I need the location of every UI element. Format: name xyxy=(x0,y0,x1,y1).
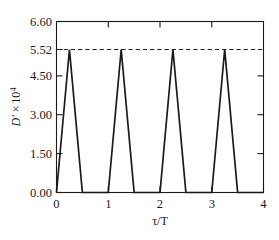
svg-text:D′×104: D′×104 xyxy=(9,87,24,127)
y-tick-label-1: 1.50 xyxy=(30,147,52,161)
y-axis-label-symbol: D′ xyxy=(9,115,23,128)
y-axis-label-exponent: 4 xyxy=(9,87,18,91)
figure-container: 0.00 1.50 3.00 4.50 5.52 6.60 0 1 2 3 4 … xyxy=(0,0,279,240)
x-tick-label-1: 1 xyxy=(105,197,111,211)
y-tick-label-4: 5.52 xyxy=(30,43,52,57)
x-axis-label: τ/T xyxy=(152,214,168,228)
x-tick-label-2: 2 xyxy=(157,197,163,211)
x-tick-label-3: 3 xyxy=(209,197,215,211)
y-axis-label-times: × xyxy=(9,106,23,113)
y-tick-label-0: 0.00 xyxy=(30,186,52,200)
y-tick-label-3: 4.50 xyxy=(30,69,52,83)
x-tick-label-0: 0 xyxy=(53,197,59,211)
y-tick-labels: 0.00 1.50 3.00 4.50 5.52 6.60 xyxy=(30,15,52,200)
plot-frame xyxy=(57,22,264,193)
x-axis-ticks-top xyxy=(108,22,212,28)
x-tick-label-4: 4 xyxy=(260,197,267,211)
y-axis-label: D′×104 xyxy=(9,87,24,127)
data-series-line xyxy=(57,49,264,192)
caption-fragment xyxy=(0,232,279,240)
y-tick-label-5: 6.60 xyxy=(30,15,52,29)
x-tick-labels: 0 1 2 3 4 xyxy=(53,197,267,211)
y-axis-label-base: 10 xyxy=(9,92,23,104)
y-axis-ticks-right xyxy=(258,76,264,154)
y-tick-label-2: 3.00 xyxy=(30,108,52,122)
chart-canvas: 0.00 1.50 3.00 4.50 5.52 6.60 0 1 2 3 4 … xyxy=(0,0,279,240)
